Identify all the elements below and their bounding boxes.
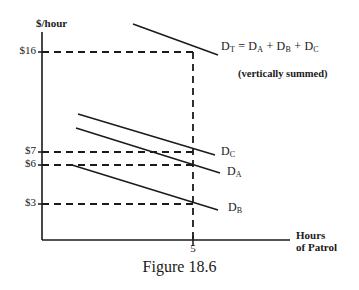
eq-term-dc: DC [304,39,318,53]
curve-label-da: DA [227,165,241,178]
figure-container: $/hour $16 $7 $6 $3 5 Hours of Patrol DT… [0,0,359,290]
x-tick-label-5: 5 [183,243,203,255]
y-tick-label-3: $3 [8,197,36,209]
eq-term-db: DB [277,39,291,53]
total-demand-equation: DT = DA + DB + DC [221,40,319,53]
eq-term-da: DA [248,39,263,53]
figure-caption: Figure 18.6 [0,258,359,276]
curve-dt [133,24,218,55]
y-axis-title: $/hour [36,18,67,30]
eq-operator-plus-2: + [291,39,304,53]
y-tick-label-16: $16 [8,45,36,57]
eq-term-dt: DT [221,39,235,53]
y-tick-label-6: $6 [8,158,36,170]
x-axis-title-line2: of Patrol [296,241,337,253]
y-tick-label-7: $7 [8,145,36,157]
eq-operator-equals: = [235,39,248,53]
x-axis-title: Hours of Patrol [296,229,337,254]
curve-label-db: DB [228,201,242,214]
vertically-summed-note: (vertically summed) [238,68,328,79]
curve-label-dc: DC [221,145,235,158]
eq-operator-plus-1: + [263,39,276,53]
x-axis-title-line1: Hours [296,229,325,241]
